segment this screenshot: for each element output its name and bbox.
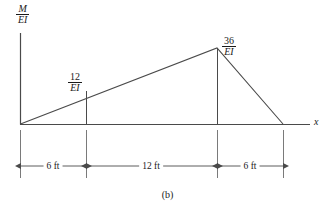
moment-diagram-svg (0, 0, 335, 212)
x-axis-label: x (314, 116, 318, 127)
y-axis-label: M EI (16, 4, 29, 26)
moment-value-12-label: 12 EI (68, 72, 82, 94)
dimension-label-right: 6 ft (241, 161, 260, 171)
moment-value-36-label: 36 EI (222, 36, 236, 58)
moment-value-36-denominator: EI (222, 47, 236, 57)
figure-caption: (b) (0, 189, 335, 200)
moment-curve (21, 48, 284, 124)
dimension-label-middle: 12 ft (139, 161, 163, 171)
moment-diagram-figure: M EI 12 EI 36 EI x 6 ft 12 ft 6 ft (b) (0, 0, 335, 212)
moment-value-12-denominator: EI (68, 83, 82, 93)
dimension-label-left: 6 ft (44, 161, 63, 171)
y-axis-label-denominator: EI (16, 15, 29, 25)
